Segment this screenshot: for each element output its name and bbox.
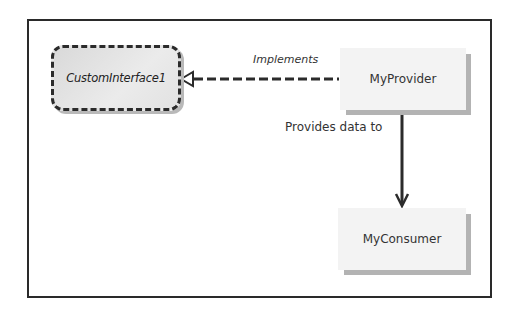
interface-node[interactable]: CustomInterface1 [51, 45, 181, 111]
provider-label: MyProvider [370, 72, 437, 86]
provides-connector[interactable] [396, 110, 408, 206]
implements-connector[interactable] [181, 72, 339, 86]
provider-node[interactable]: MyProvider [340, 48, 466, 110]
consumer-label: MyConsumer [363, 232, 442, 246]
provides-label: Provides data to [285, 120, 382, 134]
interface-label: CustomInterface1 [66, 71, 166, 85]
hollow-arrowhead-icon [181, 72, 193, 86]
implements-label: Implements [253, 53, 318, 66]
consumer-node[interactable]: MyConsumer [338, 208, 466, 270]
